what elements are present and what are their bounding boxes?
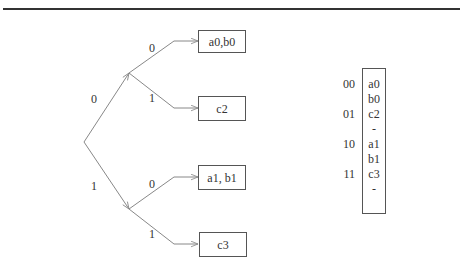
edge-label: 1 (149, 91, 155, 105)
table-cell: a1 (368, 137, 379, 151)
leaf-label: a0,b0 (209, 35, 235, 49)
table-key: 11 (343, 167, 355, 181)
edge-root-1 (84, 142, 129, 209)
table-cell: a0 (368, 77, 379, 91)
leaf-node: c2 (199, 97, 246, 121)
edge-label: 0 (149, 41, 155, 55)
table-cell: - (372, 182, 376, 196)
edge-label: 1 (149, 227, 155, 241)
table-key: 01 (343, 107, 355, 121)
table-cell: b0 (368, 92, 380, 106)
edge-label: 0 (149, 177, 155, 191)
edge-11 (129, 209, 198, 244)
edge-root-0 (84, 73, 129, 142)
root-edge-label: 0 (91, 92, 97, 106)
table-cell: b1 (368, 152, 380, 166)
edge-01 (129, 73, 198, 108)
table-key: 00 (343, 77, 355, 91)
table-key: 10 (343, 137, 355, 151)
table-cell: - (372, 122, 376, 136)
leaf-node: c3 (200, 233, 247, 257)
edge-10 (129, 177, 198, 209)
leaf-label: c2 (216, 102, 227, 116)
root-edge-label: 1 (91, 179, 97, 193)
trie-diagram: 0 1 0 1 0 1 a0,b0 c2 a1, b1 c3 00 01 10 … (0, 0, 463, 272)
table-cell: c2 (368, 107, 379, 121)
leaf-node: a0,b0 (199, 31, 246, 53)
edge-00 (129, 41, 198, 73)
hash-table: 00 01 10 11 a0 b0 c2 - a1 b1 c3 - (343, 69, 386, 214)
leaf-label: a1, b1 (207, 171, 236, 185)
leaf-node: a1, b1 (199, 166, 246, 190)
table-cell: c3 (368, 167, 379, 181)
leaf-label: c3 (217, 238, 228, 252)
